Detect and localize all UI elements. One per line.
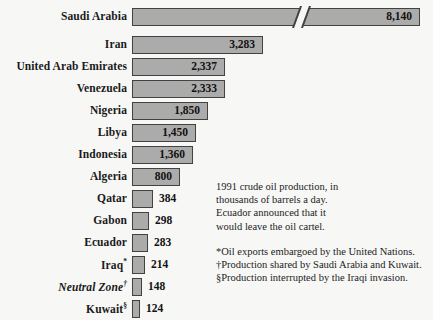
bar-value-gabon: 298 <box>155 212 172 230</box>
table-row: Kuwait§ 124 <box>0 298 433 320</box>
caption-line-4: would leave the oil cartel. <box>216 220 432 233</box>
bar-united-arab-emirates: 2,337 <box>132 58 225 76</box>
bar-value-kuwait: 124 <box>146 300 163 318</box>
category-label-kuwait: Kuwait§ <box>0 302 132 315</box>
category-label-neutral-zone: Neutral Zone† <box>0 280 132 293</box>
bar-qatar <box>132 190 153 208</box>
category-label-qatar: Qatar <box>0 193 132 205</box>
bar-indonesia: 1,360 <box>132 146 193 164</box>
category-label-indonesia: Indonesia <box>0 149 132 161</box>
bar-venezuela: 2,333 <box>132 80 225 98</box>
category-label-iraq: Iraq* <box>0 258 132 271</box>
bar-value-iran: 3,283 <box>229 39 262 51</box>
footnote-marker-iraq: * <box>123 257 127 266</box>
footnote-3: §Production interrupted by the Iraqi inv… <box>216 271 432 284</box>
bar-area-libya: 1,450 <box>132 124 433 142</box>
bar-neutral-zone <box>132 278 142 296</box>
bar-area-indonesia: 1,360 <box>132 146 433 164</box>
caption-line-2: thousands of barrels a day. <box>216 193 432 206</box>
table-row: United Arab Emirates 2,337 <box>0 56 433 78</box>
bar-area-kuwait: 124 <box>132 300 433 318</box>
bar-value-venezuela: 2,333 <box>191 83 224 95</box>
category-label-iran: Iran <box>0 39 132 51</box>
bar-iran: 3,283 <box>132 36 263 54</box>
category-label-saudi-arabia: Saudi Arabia <box>0 11 132 23</box>
bar-area-united-arab-emirates: 2,337 <box>132 58 433 76</box>
category-label-venezuela: Venezuela <box>0 83 132 95</box>
table-row: Libya 1,450 <box>0 122 433 144</box>
category-label-libya: Libya <box>0 127 132 139</box>
bar-value-iraq: 214 <box>151 256 168 274</box>
bar-value-libya: 1,450 <box>162 127 195 139</box>
chart-caption: 1991 crude oil production, in thousands … <box>216 180 432 284</box>
bar-value-qatar: 384 <box>159 190 176 208</box>
bar-area-saudi-arabia: 8,140 <box>132 8 433 26</box>
footnote-marker-kuwait: § <box>123 301 127 310</box>
bar-area-venezuela: 2,333 <box>132 80 433 98</box>
footnote-2: †Production shared by Saudi Arabia and K… <box>216 258 432 271</box>
footnote-1: *Oil exports embargoed by the United Nat… <box>216 245 432 258</box>
bar-value-united-arab-emirates: 2,337 <box>191 61 224 73</box>
bar-area-iran: 3,283 <box>132 36 433 54</box>
caption-line-3: Ecuador announced that it <box>216 206 432 219</box>
category-label-nigeria: Nigeria <box>0 105 132 117</box>
table-row: Venezuela 2,333 <box>0 78 433 100</box>
bar-kuwait <box>132 300 140 318</box>
table-row: Indonesia 1,360 <box>0 144 433 166</box>
chart-footnotes: *Oil exports embargoed by the United Nat… <box>216 245 432 285</box>
bar-area-nigeria: 1,850 <box>132 102 433 120</box>
category-label-united-arab-emirates: United Arab Emirates <box>0 61 132 73</box>
bar-value-neutral-zone: 148 <box>148 278 165 296</box>
bar-value-indonesia: 1,360 <box>159 149 192 161</box>
bar-value-saudi-arabia: 8,140 <box>386 11 419 23</box>
caption-line-1: 1991 crude oil production, in <box>216 180 432 193</box>
footnote-marker-neutral-zone: † <box>123 279 127 288</box>
bar-value-algeria: 800 <box>155 171 179 183</box>
bar-nigeria: 1,850 <box>132 102 208 120</box>
category-label-gabon: Gabon <box>0 215 132 227</box>
category-label-ecuador: Ecuador <box>0 237 132 249</box>
bar-value-nigeria: 1,850 <box>174 105 207 117</box>
bar-gabon <box>132 212 149 230</box>
bar-value-ecuador: 283 <box>154 234 171 252</box>
bar-libya: 1,450 <box>132 124 196 142</box>
bar-ecuador <box>132 234 148 252</box>
bar-algeria: 800 <box>132 168 180 186</box>
table-row: Saudi Arabia 8,140 <box>0 6 433 28</box>
table-row: Nigeria 1,850 <box>0 100 433 122</box>
bar-iraq <box>132 256 145 274</box>
table-row: Iran 3,283 <box>0 34 433 56</box>
category-label-algeria: Algeria <box>0 171 132 183</box>
bar-saudi-arabia: 8,140 <box>132 8 420 26</box>
